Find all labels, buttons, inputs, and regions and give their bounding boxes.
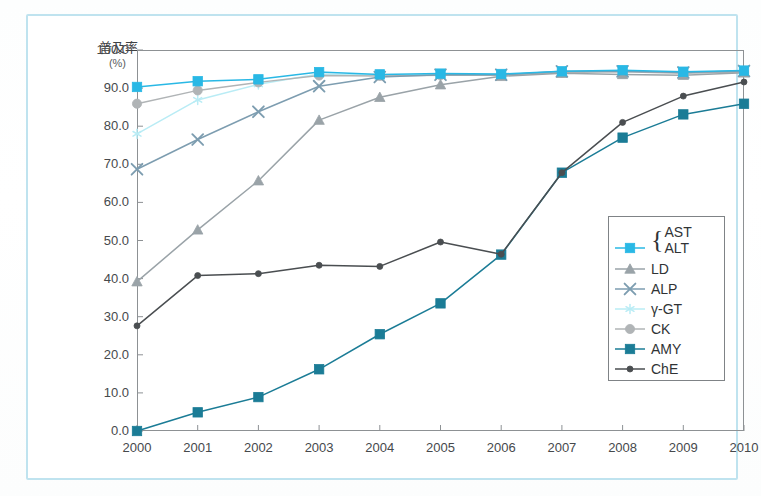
data-point-dot [741,79,747,85]
data-point-dot [627,366,633,372]
data-point-square [254,75,263,84]
data-point-square [436,69,445,78]
legend-label: AST [664,224,691,240]
legend-symbol-canvas [609,320,651,338]
data-point-dot [134,323,140,329]
legend-label: ChE [651,361,678,377]
data-point-dot [559,170,565,176]
data-point-square [254,392,263,401]
data-point-square [436,299,445,308]
data-point-square [618,65,627,74]
legend-marker-che [609,360,651,378]
data-point-circle [193,86,202,95]
y-tick-label: 70.0 [69,156,129,171]
legend-symbol-canvas [609,340,651,358]
data-point-square [132,426,141,435]
data-point-dot [195,273,201,279]
y-tick-label: 20.0 [69,347,129,362]
y-tick-label: 40.0 [69,271,129,286]
x-tick-label: 2006 [471,440,531,455]
chart-page: 普及率 (%) 0.010.020.030.040.050.060.070.08… [0,0,761,496]
y-tick-label: 30.0 [69,309,129,324]
legend-label-group: ASTALT [664,224,691,256]
legend-item-alp: ALP [609,280,726,298]
x-tick-label: 2005 [411,440,471,455]
x-tick-label: 2010 [714,440,761,455]
data-point-square [557,67,566,76]
data-point-square [193,408,202,417]
data-point-square [314,365,323,374]
legend-item-che: ChE [609,360,726,378]
data-point-square [618,133,627,142]
legend-marker-ld [609,260,651,278]
y-tick-label: 0.0 [69,423,129,438]
data-point-cross [192,134,203,145]
legend-symbol-canvas [609,280,651,298]
legend-label: LD [651,261,669,277]
x-tick-label: 2004 [350,440,410,455]
legend-marker-alp [609,280,651,298]
data-point-square [625,243,634,252]
x-tick-label: 2009 [653,440,713,455]
legend-label: γ-GT [651,301,682,317]
data-point-star [133,129,141,138]
x-tick-label: 2001 [168,440,228,455]
y-tick-label: 50.0 [69,233,129,248]
x-tick-label: 2000 [107,440,167,455]
data-point-square [314,67,323,76]
legend-label: ALP [651,281,677,297]
data-point-square [739,66,748,75]
legend-marker-amy [609,340,651,358]
data-point-square [497,69,506,78]
data-point-dot [438,239,444,245]
legend-marker-ast_alt [609,231,651,249]
legend-item-gt: γ-GT [609,300,726,318]
y-tick-label: 100.0 [69,42,129,57]
data-point-cross [132,164,143,175]
data-point-square [679,67,688,76]
x-tick-label: 2003 [289,440,349,455]
data-point-dot [498,251,504,257]
data-point-cross [253,106,264,117]
data-point-circle [625,324,634,333]
x-tick-label: 2008 [593,440,653,455]
data-point-triangle [314,115,324,124]
data-point-square [679,110,688,119]
data-point-dot [377,263,383,269]
y-tick-label: 60.0 [69,194,129,209]
legend-marker-ck [609,320,651,338]
legend-item-ld: LD [609,260,726,278]
legend-item-amy: AMY [609,340,726,358]
chart-legend: {ASTALTLDALPγ-GTCKAMYChE [608,216,725,381]
data-point-dot [316,262,322,268]
data-point-dot [620,119,626,125]
legend-symbol-canvas [609,360,651,378]
legend-item-ck: CK [609,320,726,338]
x-tick-label: 2007 [532,440,592,455]
legend-label: CK [651,321,670,337]
data-point-circle [132,99,141,108]
y-tick-label: 90.0 [69,80,129,95]
y-tick-label: 80.0 [69,118,129,133]
y-tick-label: 10.0 [69,385,129,400]
data-point-square [739,99,748,108]
data-point-dot [255,271,261,277]
legend-brace: { [651,227,663,253]
legend-symbol-canvas [609,300,651,318]
data-point-square [375,70,384,79]
legend-label: AMY [651,341,681,357]
data-point-square [193,77,202,86]
x-tick-label: 2002 [228,440,288,455]
data-point-square [625,344,634,353]
data-point-dot [680,93,686,99]
legend-marker-ggt [609,300,651,318]
data-point-square [132,82,141,91]
data-point-square [375,330,384,339]
legend-item-ast: {ASTALT [609,223,726,257]
legend-label: ALT [664,240,691,256]
legend-symbol-canvas [609,260,651,278]
